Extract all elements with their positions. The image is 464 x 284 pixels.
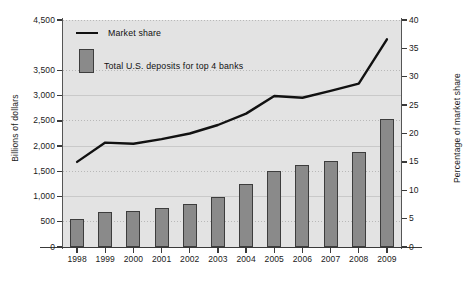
y-axis-right-tick-label: 15 [409, 156, 443, 166]
legend-item-deposits: Total U.S. deposits for top 4 banks [76, 49, 243, 73]
gridline [63, 196, 401, 197]
y-axis-right-tick-label: 25 [409, 100, 443, 110]
legend-label-market-share: Market share [108, 28, 161, 38]
x-axis-tick [189, 248, 190, 253]
gridline [63, 120, 401, 121]
y-axis-left-tick-label: 2,000 [21, 141, 55, 151]
y-axis-right-tick-label: 20 [409, 128, 443, 138]
y-axis-right-tick-label: 35 [409, 43, 443, 53]
x-axis-tick [386, 248, 387, 253]
bar-2003 [211, 197, 225, 247]
y-axis-left-tick-label: 3,500 [21, 65, 55, 75]
y-axis-left-tick [57, 19, 62, 20]
y-axis-right-title: Percentage of market share [452, 13, 464, 243]
y-axis-right-tick [402, 104, 407, 105]
y-axis-right-tick [402, 190, 407, 191]
y-axis-right-tick-label: 30 [409, 71, 443, 81]
x-axis-tick [161, 248, 162, 253]
y-axis-right-tick [402, 48, 407, 49]
legend-bar-swatch-icon [79, 49, 94, 73]
y-axis-right-tick [402, 161, 407, 162]
y-axis-right-tick-label: 10 [409, 185, 443, 195]
x-axis-tick-label-2009: 2009 [370, 254, 404, 264]
y-axis-left-spine [62, 18, 63, 249]
bar-2004 [239, 184, 253, 247]
y-axis-left-tick-label: 500 [21, 216, 55, 226]
y-axis-left-tick-label: 1,500 [21, 166, 55, 176]
gridline [63, 221, 401, 222]
x-axis-tick [133, 248, 134, 253]
gridline [63, 95, 401, 96]
gridline [63, 146, 401, 147]
y-axis-right-tick-label: 0 [409, 242, 443, 252]
bar-2006 [295, 165, 309, 247]
y-axis-left-tick-label: 4,500 [21, 15, 55, 25]
y-axis-left-tick [57, 120, 62, 121]
bar-2002 [183, 204, 197, 247]
x-axis-tick [105, 248, 106, 253]
x-axis-spine [40, 247, 422, 248]
x-axis-tick [76, 248, 77, 253]
y-axis-left-tick-label: 0 [21, 242, 55, 252]
x-axis-tick [358, 248, 359, 253]
bar-2009 [380, 119, 394, 247]
x-axis-tick [245, 248, 246, 253]
bar-2007 [324, 161, 338, 247]
y-axis-left-tick-label: 1,000 [21, 191, 55, 201]
bar-2001 [155, 208, 169, 247]
y-axis-right-tick-label: 40 [409, 15, 443, 25]
legend-item-market-share: Market share [76, 28, 161, 38]
y-axis-left-tick [57, 246, 62, 247]
y-axis-left-tick-label: 2,500 [21, 115, 55, 125]
legend-label-deposits: Total U.S. deposits for top 4 banks [104, 61, 243, 71]
bar-1999 [98, 212, 112, 247]
y-axis-left-tick [57, 95, 62, 96]
x-axis-tick [217, 248, 218, 253]
x-axis-tick [302, 248, 303, 253]
y-axis-left-tick [57, 196, 62, 197]
bar-1998 [70, 219, 84, 247]
gridline [63, 20, 401, 21]
y-axis-left-tick-label: 3,000 [21, 90, 55, 100]
y-axis-right-tick [402, 246, 407, 247]
bar-2000 [126, 211, 140, 247]
legend-line-swatch-icon [76, 32, 98, 35]
x-axis-tick [330, 248, 331, 253]
y-axis-left-tick [57, 145, 62, 146]
y-axis-right-tick [402, 19, 407, 20]
y-axis-right-tick [402, 218, 407, 219]
bar-2005 [267, 171, 281, 247]
y-axis-right-tick [402, 76, 407, 77]
y-axis-left-tick [57, 70, 62, 71]
y-axis-right-tick [402, 133, 407, 134]
y-axis-right-tick-label: 5 [409, 213, 443, 223]
gridline [63, 171, 401, 172]
bar-2008 [352, 152, 366, 247]
y-axis-left-tick [57, 171, 62, 172]
x-axis-tick [274, 248, 275, 253]
y-axis-left-title: Billions of dollars [10, 13, 22, 243]
y-axis-left-tick [57, 221, 62, 222]
